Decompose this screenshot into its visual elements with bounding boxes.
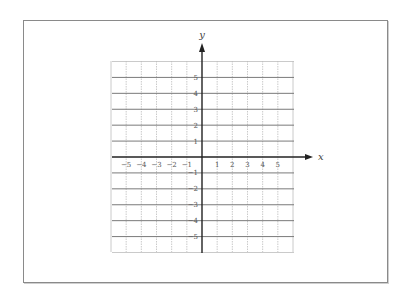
- y-tick-label: −2: [188, 185, 198, 193]
- x-tick-label: 3: [245, 161, 249, 169]
- y-tick-label: 3: [194, 106, 198, 114]
- x-tick-label: 4: [260, 161, 265, 169]
- x-tick-label: 5: [276, 161, 280, 169]
- y-tick-label: 4: [194, 90, 199, 98]
- y-axis-label: y: [198, 29, 205, 40]
- y-tick-label: −4: [188, 217, 199, 225]
- y-tick-label: 2: [194, 122, 198, 130]
- y-axis-arrow-icon: [199, 43, 205, 52]
- x-tick-label: 2: [230, 161, 234, 169]
- coordinate-plane: xy−5−4−3−2−11234554321−1−2−3−4−5: [0, 0, 409, 286]
- x-axis-label: x: [318, 151, 324, 162]
- y-tick-label: −3: [188, 201, 198, 209]
- y-tick-label: 5: [194, 74, 198, 82]
- y-tick-label: −1: [188, 169, 198, 177]
- axes: [112, 43, 313, 253]
- tick-labels: xy−5−4−3−2−11234554321−1−2−3−4−5: [121, 29, 324, 241]
- x-axis-arrow-icon: [305, 154, 313, 160]
- x-tick-label: −1: [182, 161, 192, 169]
- x-tick-label: −3: [151, 161, 161, 169]
- y-tick-label: −5: [188, 233, 198, 241]
- y-tick-label: 1: [194, 138, 198, 146]
- x-tick-label: 1: [215, 161, 219, 169]
- x-tick-label: −2: [167, 161, 177, 169]
- x-tick-label: −4: [136, 161, 147, 169]
- x-tick-label: −5: [121, 161, 131, 169]
